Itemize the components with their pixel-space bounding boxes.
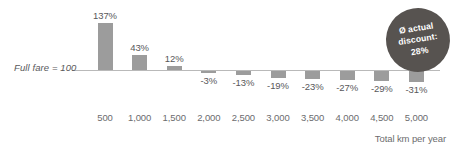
average-discount-badge: Ø actual discount: 28% [381, 3, 454, 76]
bar [236, 71, 251, 75]
bar-value-label: 43% [119, 42, 161, 53]
bar [132, 55, 147, 70]
bar-value-label: -31% [395, 84, 437, 95]
bar [167, 66, 182, 70]
baseline-label: Full fare = 100 [14, 62, 77, 73]
bar-value-label: 12% [153, 53, 195, 64]
bar [98, 23, 113, 70]
x-tick-label: 5,000 [396, 112, 436, 123]
chart-figure: Full fare = 100 137%43%12%-3%-13%-19%-23… [0, 0, 464, 157]
bar [340, 71, 355, 80]
bar [271, 71, 286, 78]
bar-value-label: 137% [84, 10, 126, 21]
x-axis-title: Total km per year [375, 133, 446, 144]
plot-area: Full fare = 100 137%43%12%-3%-13%-19%-23… [0, 0, 464, 115]
badge-line-3: 28% [410, 44, 429, 58]
bar [201, 71, 216, 73]
x-axis: 5001,0001,5002,0002,5003,0003,5004,0004,… [0, 112, 464, 130]
bar [409, 71, 424, 82]
bar [374, 71, 389, 81]
bar [305, 71, 320, 79]
